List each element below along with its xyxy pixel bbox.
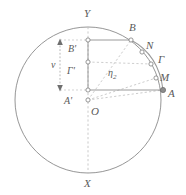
node-O	[86, 98, 90, 102]
label-Bprime: B'	[68, 44, 76, 54]
node-N	[140, 50, 144, 54]
label-B: B	[129, 22, 136, 33]
label-eta2: η2	[108, 68, 116, 81]
radius-O-A	[88, 90, 163, 100]
radius-O-M	[88, 78, 156, 100]
label-Aprime: A'	[64, 96, 72, 106]
label-Gprime: Γ'	[67, 66, 75, 76]
node-A	[160, 87, 165, 92]
node-M	[154, 76, 158, 80]
label-Y: Y	[84, 8, 90, 19]
label-A: A	[168, 88, 175, 99]
label-O: O	[91, 106, 99, 117]
label-N: N	[146, 40, 153, 51]
node-Gamma	[149, 62, 153, 66]
node-Bprime	[86, 38, 90, 42]
measure-v-arrow-up	[57, 39, 63, 46]
geometric-figure	[0, 0, 186, 195]
label-eta-subscript: 2	[113, 73, 117, 81]
label-M: M	[160, 72, 169, 83]
node-Aprime	[86, 88, 90, 92]
node-Gprime	[86, 60, 90, 64]
measure-v-arrow-down	[57, 85, 63, 92]
label-Gamma: Γ	[158, 54, 164, 65]
label-X: X	[84, 178, 91, 189]
node-B	[129, 38, 133, 42]
label-v: v	[51, 60, 55, 70]
chord-Gprime-Gamma	[88, 62, 151, 64]
